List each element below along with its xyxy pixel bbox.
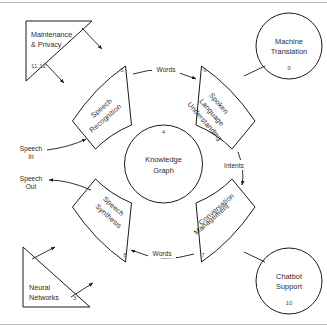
neural-networks-label-line1: Neural — [29, 283, 51, 292]
maintenance-privacy-label-line2: & Privacy — [31, 40, 62, 49]
edge-words-bottom-label: Words — [153, 250, 173, 257]
arrow-speech-out — [49, 180, 91, 190]
knowledge-graph-label-line1: Knowledge — [145, 155, 182, 164]
diagram-canvas: Knowledge Graph 4 Speech Recognition 5 S… — [0, 0, 327, 327]
chatbot-support-label-line2: Support — [276, 282, 302, 291]
speech-recognition-number: 5 — [120, 66, 124, 73]
connector-cm-to-chatbot-support — [244, 252, 265, 262]
speech-out-label-line2: Out — [26, 183, 37, 190]
arrow-neural-to-speech-synthesis-upper — [32, 247, 55, 259]
speech-in-label-line1: Speech — [20, 145, 43, 153]
connector-slu-to-machine-translation — [244, 66, 265, 76]
pipeline-diagram: Knowledge Graph 4 Speech Recognition 5 S… — [0, 0, 327, 327]
chatbot-support-label-line1: Chatbot — [276, 272, 302, 281]
conversation-management-number: 7 — [201, 251, 205, 258]
speech-synthesis-wedge[interactable] — [73, 179, 132, 262]
machine-translation-label-line2: Translation — [271, 47, 307, 56]
slu-number: 6 — [203, 66, 207, 73]
speech-in-label-line2: In — [28, 153, 34, 160]
knowledge-graph-number: 4 — [162, 128, 166, 135]
maintenance-privacy-label-line1: Maintenance — [31, 30, 72, 39]
arrow-maintenance-to-slu — [82, 28, 102, 49]
edge-words-top-label: Words — [157, 66, 177, 73]
knowledge-graph-label-line2: Graph — [153, 166, 174, 175]
chatbot-support-number: 10 — [286, 299, 293, 306]
neural-networks-label-line2: Networks — [29, 293, 59, 302]
speech-synthesis-number: 8 — [123, 251, 127, 258]
maintenance-privacy-number: 11,12 — [31, 62, 47, 69]
arrow-neural-to-speech-synthesis-lower — [71, 283, 93, 297]
speech-out-label-line1: Speech — [20, 175, 43, 183]
arrow-maintenance-to-speech-recognition — [45, 63, 64, 83]
edge-intents-label: Intents — [224, 162, 244, 169]
machine-translation-label-line1: Machine — [275, 37, 303, 46]
knowledge-graph-circle[interactable] — [125, 125, 203, 203]
arrow-speech-in — [47, 139, 86, 150]
machine-translation-number: 9 — [287, 64, 291, 71]
